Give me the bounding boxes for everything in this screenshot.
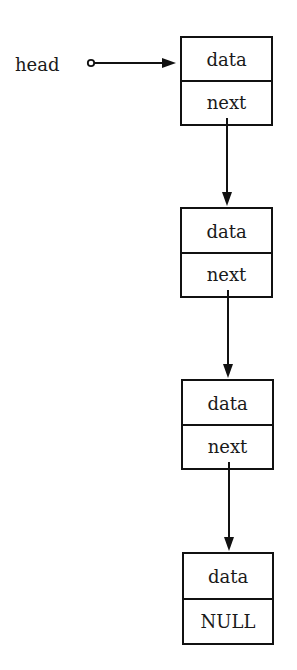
node-0: data next <box>181 37 272 125</box>
edge-node1-node2 <box>223 290 233 378</box>
node-data-field: data <box>208 566 248 587</box>
pointer-origin-icon <box>88 60 94 66</box>
node-3: data NULL <box>183 553 273 644</box>
linked-list-diagram: head data next data next data next <box>0 0 297 670</box>
arrow-head-icon <box>224 537 234 551</box>
node-null-field: NULL <box>201 611 256 632</box>
head-label: head <box>15 54 60 75</box>
node-next-field: next <box>207 264 247 285</box>
node-1: data next <box>181 208 272 297</box>
edge-node0-node1 <box>222 118 232 206</box>
head-pointer: head <box>15 54 176 75</box>
arrow-head-icon <box>222 192 232 206</box>
arrow-head-icon <box>162 58 176 68</box>
node-next-field: next <box>208 436 248 457</box>
node-data-field: data <box>206 221 246 242</box>
edge-node2-node3 <box>224 462 234 551</box>
node-2: data next <box>182 380 273 469</box>
arrow-head-icon <box>223 364 233 378</box>
node-next-field: next <box>207 92 247 113</box>
node-data-field: data <box>206 49 246 70</box>
node-data-field: data <box>207 393 247 414</box>
